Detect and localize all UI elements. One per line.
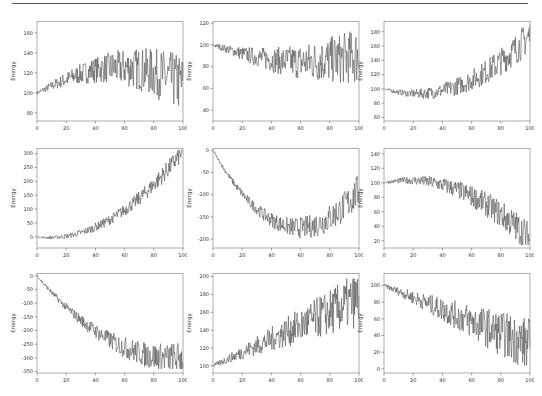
y-tick-label: 250 — [23, 164, 33, 170]
x-tick-label: 20 — [410, 252, 416, 258]
y-axis-label: Energy — [186, 313, 193, 333]
x-tick-label: 20 — [410, 125, 416, 131]
y-axis-label: Energy — [10, 313, 17, 333]
x-tick-label: 20 — [63, 252, 69, 258]
axes-frame — [213, 149, 359, 249]
x-tick-label: 40 — [92, 377, 98, 383]
x-tick-label: 40 — [439, 125, 445, 131]
energy-line — [37, 48, 183, 105]
x-tick-label: 60 — [297, 377, 303, 383]
axes-frame — [213, 22, 359, 122]
x-tick-label: 100 — [525, 125, 534, 131]
top-rule — [12, 3, 528, 4]
y-tick-label: 140 — [370, 57, 380, 63]
x-tick-label: 0 — [35, 125, 38, 131]
y-tick-label: 160 — [370, 43, 380, 49]
x-tick-label: 60 — [297, 125, 303, 131]
y-tick-label: 80 — [374, 299, 380, 305]
y-tick-label: 40 — [203, 107, 209, 113]
y-tick-label: 120 — [199, 345, 209, 351]
x-tick-label: 80 — [498, 125, 504, 131]
energy-line — [37, 276, 183, 369]
subplot-8: 020406080100100120140160180200Energy — [181, 273, 363, 396]
y-tick-label: -100 — [22, 300, 33, 306]
y-tick-label: -50 — [25, 286, 33, 292]
axes-frame — [384, 274, 530, 374]
x-tick-label: 40 — [268, 377, 274, 383]
y-tick-label: -200 — [198, 236, 209, 242]
subplot-3: 0204060801006080100120140160180Energy — [352, 21, 534, 145]
x-tick-label: 80 — [327, 125, 333, 131]
y-axis-label: Energy — [186, 61, 193, 81]
y-tick-label: 100 — [199, 363, 209, 369]
y-tick-label: 60 — [374, 114, 380, 120]
x-tick-label: 80 — [151, 252, 157, 258]
y-tick-label: 140 — [370, 151, 380, 157]
subplot-7: 0204060801000-50-100-150-200-250-300-350… — [5, 273, 187, 396]
y-tick-label: 120 — [370, 165, 380, 171]
y-axis-label: Energy — [186, 188, 193, 208]
y-tick-label: 200 — [199, 273, 209, 279]
x-tick-label: 0 — [382, 252, 385, 258]
y-tick-label: 40 — [374, 223, 380, 229]
y-tick-label: 140 — [199, 327, 209, 333]
x-tick-label: 60 — [468, 125, 474, 131]
y-axis-label: Energy — [357, 61, 364, 81]
y-tick-label: 160 — [199, 309, 209, 315]
x-tick-label: 40 — [268, 125, 274, 131]
x-tick-label: 0 — [211, 252, 214, 258]
x-tick-label: 60 — [121, 125, 127, 131]
y-tick-label: 0 — [30, 234, 33, 240]
subplot-1: 02040608010080100120140160Energy — [5, 21, 187, 145]
y-tick-label: 0 — [30, 273, 33, 279]
y-tick-label: -200 — [22, 327, 33, 333]
y-tick-label: 150 — [23, 192, 33, 198]
y-tick-label: 180 — [199, 291, 209, 297]
x-tick-label: 40 — [439, 252, 445, 258]
energy-line — [213, 150, 359, 238]
x-tick-label: 20 — [63, 125, 69, 131]
x-tick-label: 100 — [525, 252, 534, 258]
subplot-5: 0204060801000-50-100-150-200Energy — [181, 148, 363, 272]
axes-frame — [384, 22, 530, 122]
x-tick-label: 100 — [525, 377, 534, 383]
axes-frame — [37, 149, 183, 249]
y-tick-label: 120 — [23, 70, 33, 76]
x-tick-label: 80 — [498, 377, 504, 383]
x-tick-label: 80 — [151, 125, 157, 131]
y-axis-label: Energy — [357, 313, 364, 333]
y-tick-label: 0 — [206, 148, 209, 153]
energy-line — [384, 25, 530, 99]
y-tick-label: 50 — [27, 220, 33, 226]
x-tick-label: 40 — [92, 252, 98, 258]
y-tick-label: 80 — [374, 100, 380, 106]
x-tick-label: 60 — [468, 377, 474, 383]
axes-frame — [384, 149, 530, 249]
y-tick-label: 40 — [374, 332, 380, 338]
y-tick-label: 100 — [23, 206, 33, 212]
y-tick-label: 100 — [23, 90, 33, 96]
y-tick-label: 300 — [23, 150, 33, 156]
energy-line — [213, 32, 359, 83]
x-tick-label: 80 — [151, 377, 157, 383]
x-tick-label: 20 — [239, 377, 245, 383]
y-tick-label: 120 — [199, 21, 209, 26]
y-tick-label: -150 — [22, 314, 33, 320]
y-axis-label: Energy — [10, 188, 17, 208]
y-tick-label: 60 — [203, 85, 209, 91]
x-tick-label: 80 — [327, 252, 333, 258]
energy-line — [37, 150, 183, 239]
x-tick-label: 20 — [410, 377, 416, 383]
x-tick-label: 60 — [121, 252, 127, 258]
y-tick-label: 140 — [23, 50, 33, 56]
x-tick-label: 40 — [268, 252, 274, 258]
y-tick-label: 20 — [374, 349, 380, 355]
y-tick-label: -250 — [22, 341, 33, 347]
y-axis-label: Energy — [10, 61, 17, 81]
y-tick-label: -150 — [198, 214, 209, 220]
y-tick-label: 60 — [374, 209, 380, 215]
y-tick-label: -50 — [201, 169, 209, 175]
x-tick-label: 20 — [239, 125, 245, 131]
y-tick-label: 80 — [374, 194, 380, 200]
y-tick-label: 20 — [374, 238, 380, 244]
